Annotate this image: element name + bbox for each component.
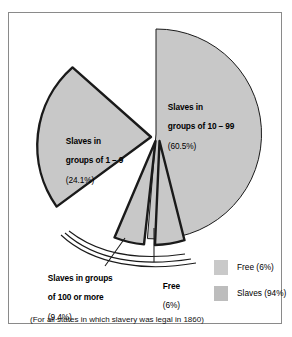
slice-label-1-9: Slaves in groups of 1 – 9 (24.1%) — [57, 127, 123, 196]
page-top-artifact — [0, 0, 292, 9]
slice-label-1-9-line1: Slaves in — [66, 136, 101, 146]
chart-footnote: (For all states in which slavery was leg… — [30, 315, 204, 324]
slice-label-10-99-line1: Slaves in — [168, 102, 203, 112]
legend-label-slaves: Slaves (94%) — [237, 288, 286, 298]
legend-label-free: Free (6%) — [237, 262, 274, 272]
slice-label-100-more-line2: of 100 or more — [48, 292, 104, 302]
slice-label-100-more-line1: Slaves in groups — [48, 273, 113, 283]
legend-item-free[interactable]: Free (6%) — [214, 259, 286, 275]
chart-legend: Free (6%) Slaves (94%) — [214, 259, 286, 311]
pie-chart-figure: Slaves in groups of 10 – 99 (60.5%) Slav… — [8, 12, 282, 324]
slice-label-free-line1: Free — [163, 281, 180, 291]
slice-label-1-9-line2: groups of 1 – 9 — [66, 155, 124, 165]
slice-label-1-9-pct: (24.1%) — [66, 175, 94, 185]
slice-label-free-pct: (6%) — [163, 300, 180, 310]
slice-label-10-99-line2: groups of 10 – 99 — [168, 121, 235, 131]
legend-swatch-free — [214, 260, 228, 275]
slice-label-free: Free (6%) — [154, 272, 180, 321]
legend-swatch-slaves — [214, 286, 228, 301]
slice-label-10-99: Slaves in groups of 10 – 99 (60.5%) — [159, 93, 234, 162]
slice-label-10-99-pct: (60.5%) — [168, 141, 196, 151]
legend-item-slaves[interactable]: Slaves (94%) — [214, 285, 286, 301]
